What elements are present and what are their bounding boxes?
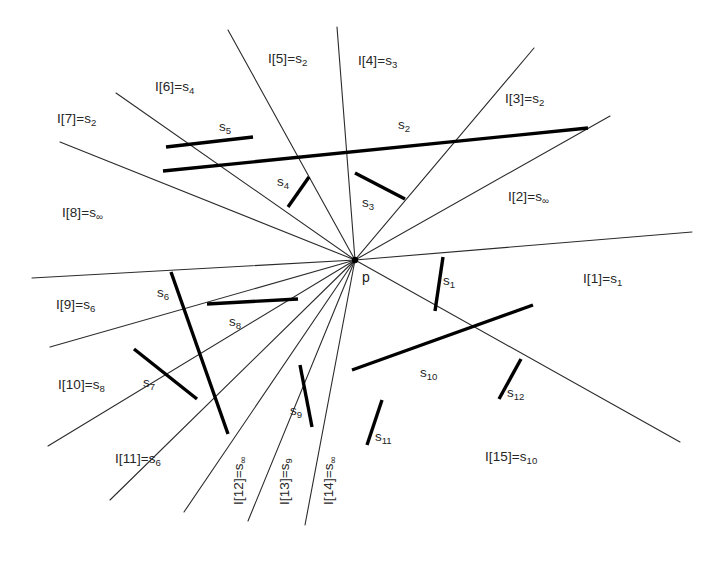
segment-label-s2: s2 — [398, 118, 410, 132]
ray-i3 — [355, 48, 534, 260]
ray-i4 — [337, 27, 355, 260]
segment-s10 — [352, 305, 533, 370]
segment-s7 — [134, 349, 197, 399]
ray-i13 — [248, 260, 355, 521]
ray-label-i8: I[8]=s∞ — [62, 206, 103, 220]
ray-label-i4: I[4]=s3 — [358, 54, 397, 68]
segment-label-s3: s3 — [362, 196, 374, 210]
ray-label-i1: I[1]=s1 — [583, 272, 622, 286]
segment-s5 — [166, 137, 253, 147]
ray-label-i15: I[15]=s10 — [485, 450, 537, 464]
segment-label-s9: s9 — [290, 404, 302, 418]
segment-label-s10: s10 — [420, 366, 437, 380]
ray-label-i10: I[10]=s8 — [58, 378, 105, 392]
ray-i1 — [355, 232, 692, 260]
ray-label-i11: I[11]=s6 — [115, 452, 161, 466]
ray-label-i3: I[3]=s2 — [505, 92, 544, 106]
ray-label-i2: I[2]=s∞ — [508, 190, 549, 204]
ray-label-i14: I[14]=s∞ — [322, 457, 336, 505]
segment-label-s7: s7 — [143, 376, 155, 390]
segment-label-s4: s4 — [277, 175, 289, 189]
segment-s4 — [288, 177, 309, 207]
ray-label-i5: I[5]=s2 — [268, 52, 307, 66]
segment-label-s5: s5 — [219, 120, 231, 134]
center-point-dot — [352, 257, 358, 263]
segment-s6 — [171, 272, 228, 434]
segment-label-s6: s6 — [157, 286, 169, 300]
ray-i7 — [60, 142, 355, 260]
ray-label-i9: I[9]=s6 — [56, 298, 95, 312]
segment-label-s12: s12 — [507, 386, 524, 400]
ray-i9 — [50, 260, 355, 347]
ray-label-i6: I[6]=s4 — [155, 80, 194, 94]
point-label-p: p — [362, 270, 370, 284]
segment-label-s1: s1 — [443, 274, 455, 288]
ray-label-i7: I[7]=s2 — [57, 112, 96, 126]
segment-s1 — [435, 257, 443, 311]
ray-i8 — [32, 260, 355, 278]
ray-i6 — [116, 93, 355, 260]
segment-label-s8: s8 — [229, 315, 241, 329]
ray-diagram-figure: I[1]=s1I[2]=s∞I[3]=s2I[4]=s3I[5]=s2I[6]=… — [0, 0, 718, 571]
ray-label-i12: I[12]=s∞ — [232, 457, 246, 505]
ray-label-i13: I[13]=s9 — [278, 458, 292, 505]
segment-label-s11: s11 — [375, 430, 392, 444]
